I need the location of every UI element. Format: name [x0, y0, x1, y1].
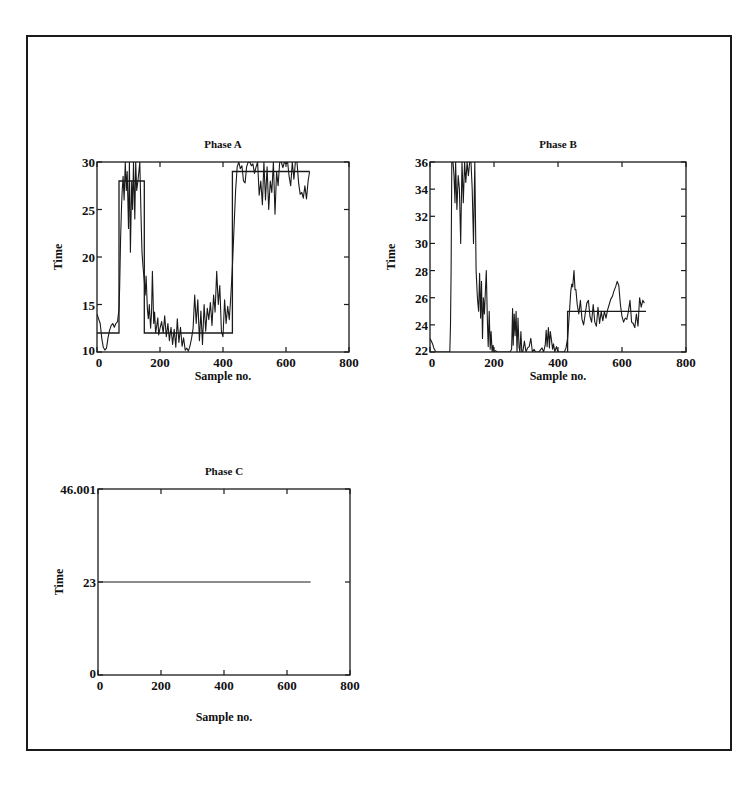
- x-axis-label: Sample no.: [195, 369, 252, 383]
- chart-phase-c: Phase C020040060080002346.001Sample no.T…: [52, 465, 360, 724]
- y-axis-label: Time: [384, 243, 398, 270]
- y-tick-label: 30: [82, 155, 95, 170]
- charts-canvas: Phase A02004006008001015202530Sample no.…: [0, 0, 752, 786]
- x-tick-label: 200: [150, 355, 170, 370]
- y-tick-label: 32: [415, 209, 428, 224]
- y-tick-label: 0: [90, 666, 97, 681]
- series-measured: [97, 162, 310, 351]
- x-tick-label: 400: [548, 355, 568, 370]
- y-tick-label: 26: [415, 291, 429, 306]
- x-tick-label: 200: [484, 355, 504, 370]
- series-setpoint: [568, 311, 646, 352]
- y-tick-label: 28: [415, 264, 429, 279]
- x-tick-label: 800: [340, 678, 360, 693]
- y-tick-label: 30: [415, 236, 428, 251]
- x-tick-label: 0: [429, 355, 436, 370]
- y-tick-label: 36: [415, 155, 429, 170]
- x-tick-label: 400: [213, 355, 233, 370]
- y-axis-label: Time: [51, 243, 65, 270]
- chart-title: Phase B: [539, 138, 577, 150]
- chart-phase-a: Phase A02004006008001015202530Sample no.…: [51, 138, 359, 383]
- y-tick-label: 15: [82, 298, 96, 313]
- chart-title: Phase C: [205, 465, 243, 477]
- x-tick-label: 0: [97, 678, 104, 693]
- y-tick-label: 24: [415, 318, 429, 333]
- chart-title: Phase A: [204, 138, 242, 150]
- series-group: [97, 162, 310, 351]
- y-tick-label: 46.001: [60, 482, 96, 497]
- y-axis-label: Time: [52, 568, 66, 595]
- y-tick-label: 34: [415, 182, 429, 197]
- x-tick-label: 400: [214, 678, 234, 693]
- series-measured: [430, 162, 644, 352]
- x-tick-label: 600: [612, 355, 632, 370]
- y-tick-label: 20: [82, 250, 95, 265]
- x-tick-label: 200: [151, 678, 171, 693]
- x-tick-label: 800: [676, 355, 696, 370]
- y-tick-label: 10: [82, 343, 95, 358]
- y-tick-label: 22: [415, 343, 428, 358]
- x-axis-label: Sample no.: [530, 369, 587, 383]
- x-tick-label: 800: [339, 355, 359, 370]
- chart-phase-b: Phase B02004006008002224262830323436Samp…: [384, 138, 696, 383]
- x-tick-label: 600: [276, 355, 296, 370]
- x-tick-label: 0: [96, 355, 103, 370]
- plot-area: [430, 162, 686, 352]
- series-group: [430, 162, 646, 352]
- x-axis-label: Sample no.: [196, 710, 253, 724]
- y-tick-label: 23: [83, 575, 97, 590]
- x-tick-label: 600: [277, 678, 297, 693]
- y-tick-label: 25: [82, 203, 96, 218]
